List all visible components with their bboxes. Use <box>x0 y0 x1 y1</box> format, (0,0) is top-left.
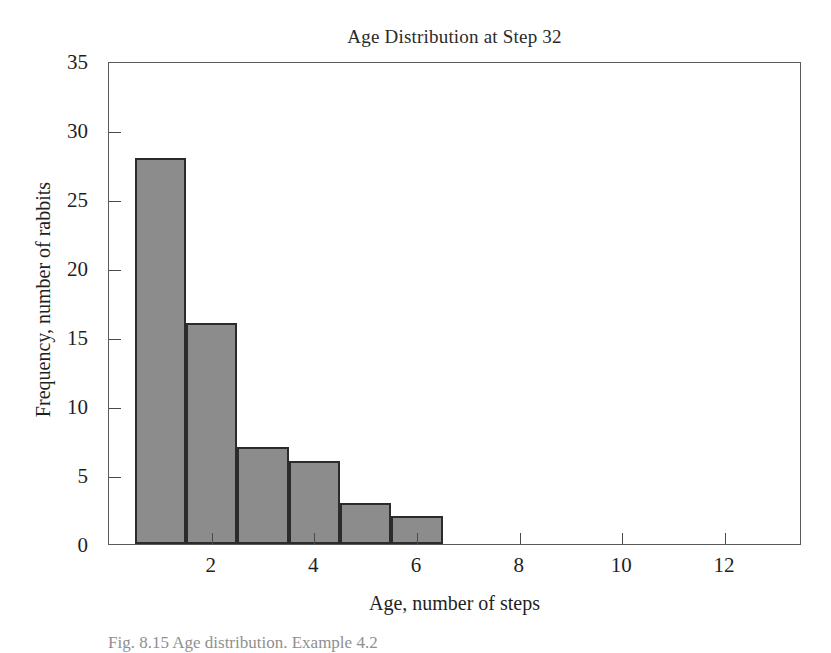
x-tick-label: 6 <box>411 553 422 578</box>
x-tick-mark <box>520 533 521 544</box>
x-tick-label: 2 <box>205 553 216 578</box>
x-tick-label: 10 <box>611 553 632 578</box>
bar <box>135 158 186 544</box>
y-tick-label: 20 <box>67 257 88 282</box>
bar <box>340 503 391 544</box>
y-tick-mark <box>109 201 121 202</box>
y-tick-label: 25 <box>67 188 88 213</box>
bar <box>289 461 340 544</box>
y-tick-mark <box>109 339 121 340</box>
plot-area <box>109 63 800 544</box>
y-tick-label: 30 <box>67 119 88 144</box>
bar <box>186 323 237 544</box>
x-tick-mark <box>212 533 213 544</box>
y-tick-mark <box>109 477 121 478</box>
x-axis-labels: 24681012 <box>108 545 801 585</box>
x-tick-label: 12 <box>714 553 735 578</box>
y-tick-label: 5 <box>78 464 89 489</box>
x-tick-mark <box>314 533 315 544</box>
y-tick-label: 0 <box>78 533 89 558</box>
y-tick-mark <box>109 270 121 271</box>
x-axis-title: Age, number of steps <box>108 592 801 615</box>
x-tick-label: 4 <box>308 553 319 578</box>
x-tick-mark <box>417 533 418 544</box>
plot-frame <box>108 62 801 545</box>
y-tick-label: 10 <box>67 395 88 420</box>
y-tick-label: 15 <box>67 326 88 351</box>
x-tick-mark <box>622 533 623 544</box>
y-axis-title: Frequency, number of rabbits <box>32 90 55 510</box>
figure-caption: Fig. 8.15 Age distribution. Example 4.2 <box>108 633 808 653</box>
x-tick-label: 8 <box>513 553 524 578</box>
y-tick-mark <box>109 132 121 133</box>
bar <box>237 447 288 544</box>
y-tick-mark <box>109 408 121 409</box>
y-tick-label: 35 <box>67 50 88 75</box>
chart-title: Age Distribution at Step 32 <box>108 26 801 48</box>
x-tick-mark <box>725 533 726 544</box>
